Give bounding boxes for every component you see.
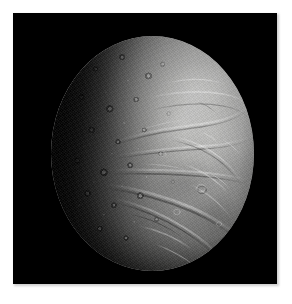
film-grain (51, 36, 254, 271)
moon-disk (51, 36, 254, 271)
page-canvas (0, 0, 292, 304)
enceladus-photograph (13, 13, 277, 284)
moon-container (13, 13, 277, 284)
